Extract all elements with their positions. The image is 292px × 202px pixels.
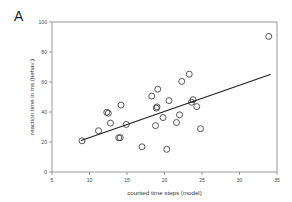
data-points-layer: [79, 33, 272, 152]
x-axis-label: counted time steps (model): [127, 189, 202, 196]
x-tick-label: 25: [199, 177, 205, 183]
y-tick-label: 40: [41, 109, 47, 115]
x-axis-ticks: 5101520253035: [51, 172, 280, 183]
data-point: [179, 78, 185, 84]
data-point: [266, 33, 272, 39]
x-tick-label: 30: [237, 177, 243, 183]
x-tick-label: 10: [87, 177, 93, 183]
data-point: [153, 123, 159, 129]
data-point: [164, 146, 170, 152]
y-axis-label: reaction time in ms (behav.): [28, 59, 35, 135]
data-point: [160, 115, 166, 121]
data-point: [96, 128, 102, 134]
x-tick-label: 15: [124, 177, 130, 183]
y-axis-ticks: 020406080100: [39, 19, 53, 175]
x-tick-label: 35: [274, 177, 280, 183]
plot-frame: [52, 22, 277, 172]
y-tick-label: 20: [41, 139, 47, 145]
data-point: [177, 112, 183, 118]
y-tick-label: 0: [44, 169, 47, 175]
scatter-plot: 020406080100 5101520253035 counted time …: [0, 0, 292, 202]
data-point: [198, 126, 204, 132]
y-tick-label: 100: [39, 19, 48, 25]
data-point: [118, 102, 124, 108]
data-point: [149, 93, 155, 99]
data-point: [139, 144, 145, 150]
x-tick-label: 5: [51, 177, 54, 183]
regression-line: [81, 75, 270, 141]
data-point: [166, 98, 172, 104]
x-tick-label: 20: [162, 177, 168, 183]
data-point: [194, 104, 200, 110]
y-tick-label: 80: [41, 49, 47, 55]
y-tick-label: 60: [41, 79, 47, 85]
data-point: [155, 86, 161, 92]
data-point: [108, 120, 114, 126]
panel-label: A: [14, 9, 24, 23]
figure-panel: A 020406080100 5101520253035 counted tim…: [0, 0, 292, 202]
data-point: [174, 120, 180, 126]
data-point: [186, 71, 192, 77]
